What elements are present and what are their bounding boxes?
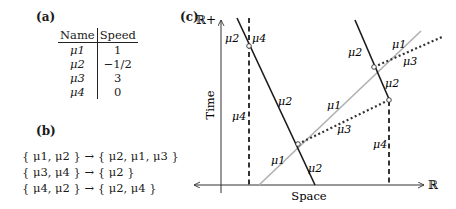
mu2-label: μ2 <box>278 95 292 108</box>
collision-point <box>247 44 252 49</box>
collision-point <box>372 65 377 70</box>
mu2-label: μ2 <box>348 46 362 59</box>
mu1-label: μ1 <box>392 38 406 51</box>
mu4-label: μ4 <box>232 110 246 123</box>
mu1-label: μ1 <box>271 154 285 167</box>
collision-point <box>296 142 301 147</box>
mu4-label: μ4 <box>252 32 266 45</box>
mu2-right-line <box>355 20 389 99</box>
mu1-label: μ1 <box>327 99 341 112</box>
spacetime-diagram: ℝ+ Time Space ℝ μ2 μ4 μ2 μ4 μ1 μ2 μ3 μ1 … <box>0 0 456 209</box>
mu3-label: μ3 <box>337 123 351 136</box>
y-axis-top-label: ℝ+ <box>196 13 216 27</box>
mu2-label: μ2 <box>308 162 322 175</box>
mu4-label: μ4 <box>373 138 387 151</box>
x-axis-label: Space <box>291 189 327 203</box>
mu2-label: μ2 <box>385 77 399 90</box>
y-axis-label: Time <box>203 90 217 119</box>
mu3-label: μ3 <box>403 55 417 68</box>
mu2-label: μ2 <box>225 32 239 45</box>
collision-point <box>387 98 392 103</box>
x-axis-end-label: ℝ <box>428 178 439 192</box>
